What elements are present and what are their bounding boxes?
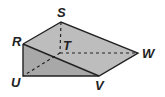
label-s: S bbox=[57, 5, 66, 20]
label-r: R bbox=[12, 34, 22, 49]
label-t: T bbox=[63, 38, 72, 53]
label-w: W bbox=[142, 46, 156, 61]
label-u: U bbox=[11, 75, 21, 90]
label-v: V bbox=[95, 78, 105, 93]
prism-diagram: S R T W U V bbox=[0, 0, 165, 97]
